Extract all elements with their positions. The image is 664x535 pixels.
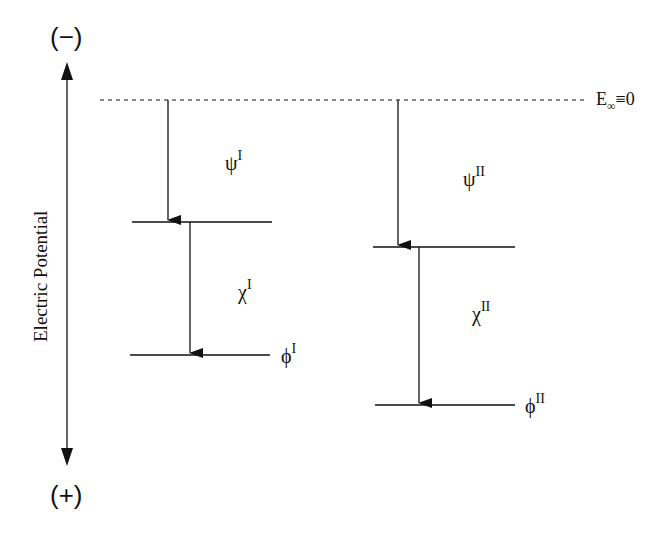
label-chi-II: χII	[472, 301, 490, 326]
system-I	[130, 100, 272, 355]
axis-arrow-up-icon	[61, 62, 73, 80]
label-phi-II: ϕII	[525, 393, 545, 418]
reference-label-sub: ∞	[607, 99, 616, 113]
phi-symbol: ϕ	[281, 345, 292, 367]
label-psi-II: ψII	[463, 166, 485, 191]
chi-superscript: II	[481, 299, 490, 314]
label-psi-I: ψI	[225, 150, 242, 175]
potential-axis	[61, 62, 73, 466]
axis-positive-sign: (+)	[50, 480, 83, 511]
reference-label: E∞≡0	[596, 89, 635, 114]
label-phi-I: ϕI	[281, 343, 296, 368]
system-II	[373, 100, 515, 405]
phi-superscript: I	[292, 341, 297, 356]
psi-symbol: ψ	[225, 152, 238, 174]
energy-level-diagram	[0, 0, 664, 535]
reference-label-rest: ≡0	[616, 89, 635, 109]
psi-symbol: ψ	[463, 168, 476, 190]
axis-title: Electric Potential	[30, 211, 52, 342]
label-chi-I: χI	[238, 279, 252, 304]
phi-symbol: ϕ	[525, 395, 536, 417]
chi-symbol: χ	[238, 281, 247, 303]
axis-arrow-down-icon	[61, 448, 73, 466]
chi-superscript: I	[247, 277, 252, 292]
chi-symbol: χ	[472, 303, 481, 325]
psi-superscript: II	[476, 164, 485, 179]
psi-superscript: I	[238, 148, 243, 163]
reference-label-main: E	[596, 89, 607, 109]
axis-negative-sign: (−)	[50, 22, 83, 53]
phi-superscript: II	[536, 391, 545, 406]
